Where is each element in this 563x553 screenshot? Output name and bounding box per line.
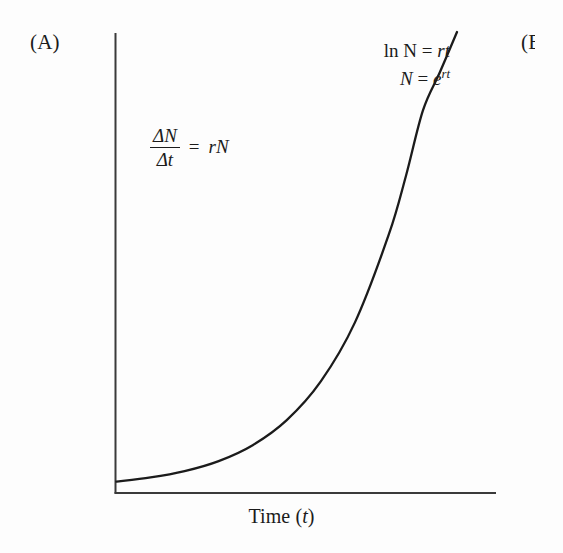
fraction-numerator: ΔN [150, 125, 180, 148]
equals-sign: = [189, 136, 200, 160]
x-axis-title-prefix: Time ( [248, 505, 302, 527]
rate-fraction: ΔN Δt [150, 125, 180, 171]
log-left-side: ln N [384, 40, 417, 61]
log-equals-sign: = [422, 40, 433, 61]
x-axis-title: Time (t) [0, 505, 563, 528]
exp-equals-sign: = [417, 68, 428, 89]
solution-line-log: ln N = rt [340, 37, 450, 65]
figure-panel-a: (A) (B) Number of organisms (N) Time (t)… [0, 0, 563, 553]
exponential-growth-curve [0, 0, 563, 553]
solution-line-exponential: N = ert [340, 65, 450, 93]
differential-equation-annotation: ΔN Δt = rN [150, 125, 229, 171]
solution-equations-annotation: ln N = rt N = ert [340, 37, 450, 92]
plot-area: Number of organisms (N) Time (t) [0, 0, 563, 553]
fraction-denominator: Δt [154, 148, 176, 170]
rate-right-side: rN [209, 136, 229, 160]
log-right-side: rt [437, 40, 450, 61]
x-axis-title-suffix: ) [308, 505, 315, 527]
growth-curve-path [117, 32, 458, 482]
exp-exponent: rt [441, 65, 450, 80]
exp-left-side: N [400, 68, 413, 89]
